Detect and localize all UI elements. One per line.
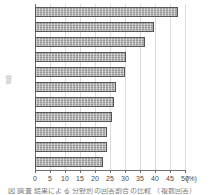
bar	[35, 112, 112, 122]
bar	[35, 37, 145, 47]
x-tick-mark	[185, 170, 186, 173]
figure-caption-cropped: 図 調査 結果による 分野別の回答割合の比較 （複数回答）	[0, 188, 209, 195]
gridline	[185, 4, 186, 170]
x-tick-mark	[95, 170, 96, 173]
bar-row	[35, 97, 185, 107]
x-axis-unit-label: (%)	[186, 174, 197, 183]
x-tick-mark	[125, 170, 126, 173]
x-tick-mark	[80, 170, 81, 173]
bar-row	[35, 127, 185, 137]
x-tick-mark	[170, 170, 171, 173]
bar-row	[35, 7, 185, 17]
bar	[35, 142, 107, 152]
x-tick-mark	[140, 170, 141, 173]
y-axis-label: 項目	[0, 73, 16, 87]
bar-row	[35, 22, 185, 32]
bar-series	[35, 4, 185, 170]
bar	[35, 22, 154, 32]
bar	[35, 82, 116, 92]
plot-area	[35, 4, 185, 170]
bar	[35, 7, 178, 17]
x-tick-mark	[65, 170, 66, 173]
bar-row	[35, 82, 185, 92]
bar	[35, 67, 125, 77]
bar	[35, 157, 103, 167]
x-tick-mark	[50, 170, 51, 173]
bar-row	[35, 52, 185, 62]
x-tick-mark	[110, 170, 111, 173]
bar-row	[35, 37, 185, 47]
bar-row	[35, 157, 185, 167]
caption-text: 図 調査 結果による 分野別の回答割合の比較 （複数回答）	[8, 188, 209, 195]
bar	[35, 52, 126, 62]
x-tick-mark	[155, 170, 156, 173]
bar	[35, 127, 107, 137]
bar-chart: 項目 05101520253035404550 (%) 図 調査 結果による 分…	[0, 0, 209, 195]
x-tick-mark	[35, 170, 36, 173]
bar-row	[35, 112, 185, 122]
bar-row	[35, 142, 185, 152]
bar	[35, 97, 114, 107]
bar-row	[35, 67, 185, 77]
